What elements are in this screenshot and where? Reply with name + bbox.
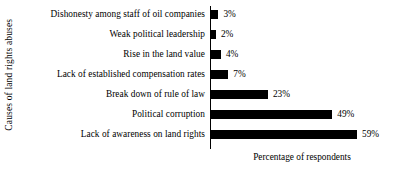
bar-value-0: 3% bbox=[223, 9, 235, 19]
x-axis-title: Percentage of respondents bbox=[210, 152, 394, 163]
bar-4 bbox=[211, 90, 268, 99]
bar-value-3: 7% bbox=[233, 69, 245, 79]
bar-0 bbox=[211, 10, 218, 19]
bar-3 bbox=[211, 70, 228, 79]
bar-2 bbox=[211, 50, 221, 59]
bar-value-5: 49% bbox=[337, 109, 354, 119]
category-label-4: Break down of rule of law bbox=[20, 89, 205, 99]
bar-1 bbox=[211, 30, 216, 39]
category-label-6: Lack of awareness on land rights bbox=[20, 129, 205, 139]
category-label-2: Rise in the land value bbox=[20, 49, 205, 59]
bar-chart: Causes of land rights abuses Dishonesty … bbox=[0, 0, 394, 177]
category-label-0: Dishonesty among staff of oil companies bbox=[20, 9, 205, 19]
category-axis-labels: Dishonesty among staff of oil companies … bbox=[20, 9, 205, 149]
y-axis-title-text: Causes of land rights abuses bbox=[5, 19, 15, 131]
bar-5 bbox=[211, 110, 332, 119]
bar-value-1: 2% bbox=[221, 29, 233, 39]
category-label-3: Lack of established compensation rates bbox=[20, 69, 205, 79]
bar-value-2: 4% bbox=[226, 49, 238, 59]
plot-area: 3% 2% 4% 7% 23% 49% 59% bbox=[210, 6, 394, 149]
y-axis-title: Causes of land rights abuses bbox=[0, 0, 20, 150]
bar-value-6: 59% bbox=[362, 129, 379, 139]
bar-value-4: 23% bbox=[273, 89, 290, 99]
category-label-5: Political corruption bbox=[20, 109, 205, 119]
category-label-1: Weak political leadership bbox=[20, 29, 205, 39]
bar-6 bbox=[211, 130, 357, 139]
